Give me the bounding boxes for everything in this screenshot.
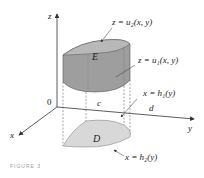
origin-label: 0 <box>47 98 52 107</box>
figure-canvas: z y x 0 c d E D z = u₂(x, y) z = u₁(x, y… <box>0 0 204 178</box>
x-axis <box>19 107 57 135</box>
tick-c-label: c <box>97 99 101 108</box>
figure-caption: FIGURE 3 <box>10 163 41 169</box>
y-axis-label: y <box>188 124 192 133</box>
tick-d-label: d <box>149 104 154 113</box>
lower-surface-label: z = u₁(x, y) <box>138 56 178 65</box>
region-d-label: D <box>93 134 100 144</box>
upper-surface-label: z = u₂(x, y) <box>112 18 152 27</box>
x-axis-label: x <box>10 131 14 140</box>
y-axis <box>57 107 194 119</box>
boundary-h2-label: x = h₂(y) <box>125 153 157 162</box>
z-axis-label: z <box>48 12 52 21</box>
boundary-h1-label: x = h₁(y) <box>143 89 175 98</box>
solid-e-label: E <box>92 52 98 62</box>
